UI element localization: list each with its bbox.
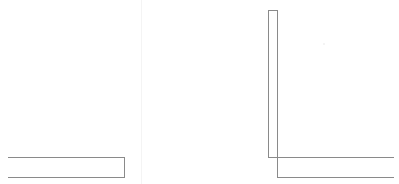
background-speck: [323, 43, 325, 45]
vertical-bar-outline: [268, 10, 278, 158]
panel-divider: [141, 0, 142, 184]
lower-horizontal-line: [277, 177, 394, 178]
left-bar-right-edge: [124, 157, 125, 178]
left-bar-top-edge: [8, 157, 125, 158]
left-bar-bottom-edge: [8, 177, 125, 178]
connector-vertical-line: [277, 157, 278, 178]
upper-horizontal-line: [268, 157, 394, 158]
